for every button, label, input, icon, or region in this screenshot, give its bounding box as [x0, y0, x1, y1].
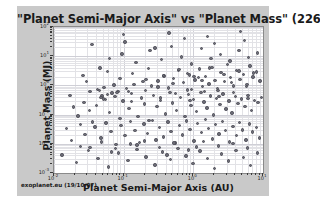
scatter-point	[198, 67, 201, 70]
x-tick	[156, 173, 157, 175]
scatter-point	[144, 78, 147, 81]
scatter-point	[144, 155, 147, 158]
scatter-point	[217, 132, 220, 135]
scatter-point	[196, 122, 199, 125]
scatter-point	[195, 145, 198, 148]
scatter-point	[231, 142, 234, 145]
scatter-point	[239, 30, 242, 33]
scatter-point	[102, 86, 105, 89]
scatter-point	[192, 75, 195, 78]
scatter-point	[85, 80, 88, 83]
y-tick-label: 102	[31, 24, 49, 29]
scatter-point	[108, 57, 111, 60]
scatter-point	[258, 136, 261, 139]
scatter-point	[237, 69, 240, 72]
scatter-point	[83, 133, 86, 136]
x-tick	[234, 173, 235, 175]
scatter-point	[213, 167, 216, 170]
scatter-point	[211, 137, 214, 140]
x-tick	[165, 173, 166, 175]
x-tick-label: 100	[188, 176, 197, 181]
scatter-point	[143, 139, 146, 142]
scatter-point	[114, 147, 117, 150]
scatter-point	[146, 132, 149, 135]
scatter-point	[79, 123, 82, 126]
scatter-point	[182, 81, 185, 84]
scatter-point	[118, 117, 121, 120]
scatter-point	[250, 109, 253, 112]
scatter-point	[207, 82, 210, 85]
x-tick	[74, 173, 75, 175]
scatter-point	[227, 159, 230, 162]
scatter-point	[221, 92, 224, 95]
scatter-point	[214, 123, 217, 126]
scatter-point	[141, 80, 144, 83]
scatter-point	[232, 91, 235, 94]
scatter-point	[87, 149, 90, 152]
scatter-point	[251, 75, 254, 78]
scatter-point	[247, 56, 250, 59]
scatter-point	[242, 73, 245, 76]
x-tick-label: 101	[258, 176, 267, 181]
scatter-point	[260, 96, 263, 99]
scatter-point	[135, 148, 138, 151]
scatter-point	[154, 138, 157, 141]
scatter-point	[258, 79, 261, 82]
scatter-point	[224, 129, 227, 132]
scatter-point	[192, 139, 195, 142]
scatter-point	[251, 130, 254, 133]
scatter-point	[178, 124, 181, 127]
scatter-point	[248, 122, 251, 125]
scatter-point	[188, 99, 191, 102]
scatter-point	[82, 101, 85, 104]
scatter-point	[213, 79, 216, 82]
scatter-point	[118, 77, 121, 80]
scatter-point	[185, 119, 188, 122]
x-tick	[177, 173, 178, 175]
scatter-point	[153, 46, 156, 49]
scatter-point	[184, 154, 187, 157]
scatter-point	[99, 136, 102, 139]
scatter-point	[144, 89, 147, 92]
gridline-vertical	[263, 27, 264, 173]
scatter-point	[143, 102, 146, 105]
scatter-point	[122, 33, 125, 36]
scatter-point	[162, 135, 165, 138]
scatter-point	[70, 139, 73, 142]
scatter-point	[213, 42, 216, 45]
scatter-point	[221, 120, 224, 123]
scatter-point	[204, 75, 207, 78]
scatter-point	[79, 145, 82, 148]
scatter-point	[72, 105, 75, 108]
scatter-point	[191, 162, 194, 165]
scatter-point	[123, 134, 126, 137]
scatter-point	[132, 83, 135, 86]
scatter-point	[256, 101, 259, 104]
x-tick	[255, 173, 256, 175]
scatter-point	[200, 131, 203, 134]
scatter-point	[88, 109, 91, 112]
scatter-point	[162, 74, 165, 77]
scatter-point	[234, 95, 237, 98]
scatter-point	[249, 164, 252, 167]
scatter-point	[180, 55, 183, 58]
scatter-point	[75, 161, 78, 164]
scatter-point	[175, 109, 178, 112]
scatter-point	[174, 92, 177, 95]
scatter-point	[166, 120, 169, 123]
scatter-point	[203, 90, 206, 93]
scatter-point	[108, 111, 111, 114]
scatter-point	[244, 138, 247, 141]
scatter-point	[187, 148, 190, 151]
scatter-point	[222, 73, 225, 76]
x-tick-label: 10-1	[117, 176, 127, 181]
scatter-point	[117, 151, 120, 154]
scatter-point	[255, 70, 258, 73]
scatter-point	[229, 76, 232, 79]
scatter-point	[129, 120, 132, 123]
x-tick	[112, 173, 113, 175]
scatter-point	[164, 112, 167, 115]
scatter-point	[256, 151, 259, 154]
scatter-point	[179, 96, 182, 99]
scatter-point	[237, 49, 240, 52]
